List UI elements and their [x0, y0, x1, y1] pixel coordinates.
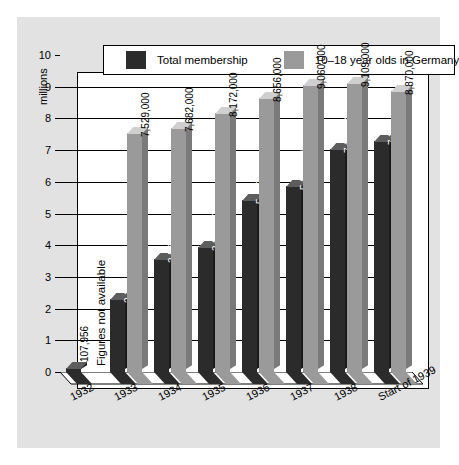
bar-front-face	[198, 247, 213, 372]
bar-value-label: 9,109,000	[360, 43, 371, 88]
legend-label-youth-population: 10–18 year olds in Germany	[315, 54, 459, 66]
bar-youth-population-start-of-1939	[391, 91, 406, 372]
bar-front-face	[154, 259, 169, 372]
bar-front-face	[286, 186, 301, 372]
y-tick-mark	[55, 55, 60, 56]
bar-value-label: 7,682,000	[184, 88, 195, 133]
y-tick-mark	[55, 214, 60, 215]
chart-panel: millions Total membership 10–18 year old…	[17, 17, 440, 448]
bar-front-face	[391, 91, 406, 372]
y-tick-mark	[55, 340, 60, 341]
y-tick-label: 2	[31, 304, 51, 314]
bar-side-face	[274, 91, 280, 369]
y-tick-mark	[55, 182, 60, 183]
bar-front-face	[374, 141, 389, 372]
annotation-figures-not-available: Figures not available	[95, 260, 107, 366]
bar-side-face	[142, 127, 148, 369]
bar-side-face	[362, 76, 368, 368]
bar-front-face	[127, 133, 142, 372]
legend-label-total-membership: Total membership	[157, 54, 248, 66]
bar-value-label: 9,060,000	[316, 44, 327, 89]
bar-youth-population-1935	[215, 113, 230, 372]
bar-side-face	[186, 122, 192, 369]
bar-front-face	[171, 128, 186, 372]
y-tick-mark	[55, 150, 60, 151]
y-tick-mark	[55, 87, 60, 88]
y-tick-label: 1	[31, 335, 51, 345]
bar-front-face	[330, 149, 345, 372]
y-tick-label: 9	[31, 82, 51, 92]
legend-swatch-dark-icon	[126, 51, 146, 69]
bar-side-face	[230, 106, 236, 369]
bar-total-membership-1933	[110, 299, 125, 372]
bar-value-label: 107,956	[79, 326, 90, 362]
bar-total-membership-1936	[242, 200, 257, 372]
y-tick-label: 4	[31, 240, 51, 250]
bar-front-face	[347, 83, 362, 372]
y-tick-label: 5	[31, 209, 51, 219]
bar-side-face	[406, 84, 412, 369]
bar-front-face	[215, 113, 230, 372]
bar-total-membership-1934	[154, 259, 169, 372]
y-tick-mark	[55, 118, 60, 119]
bar-youth-population-1937	[303, 85, 318, 372]
bar-front-face	[259, 98, 274, 372]
y-tick-label: 8	[31, 113, 51, 123]
y-tick-mark	[55, 277, 60, 278]
y-tick-label: 3	[31, 272, 51, 282]
legend-entry-youth-population: 10–18 year olds in Germany	[284, 51, 459, 69]
bar-youth-population-1933	[127, 133, 142, 372]
y-tick-label: 10	[31, 50, 51, 60]
bar-youth-population-1938	[347, 83, 362, 372]
legend-entry-total-membership: Total membership	[126, 51, 248, 69]
bar-value-label: 8,870,000	[404, 50, 415, 95]
bar-total-membership-1938	[330, 149, 345, 372]
bar-front-face	[242, 200, 257, 372]
bar-side-face	[318, 78, 324, 369]
y-tick-mark	[55, 245, 60, 246]
y-tick-mark	[55, 309, 60, 310]
legend-swatch-grey-icon	[284, 51, 304, 69]
x-axis-floor	[60, 372, 422, 384]
floor-shape	[60, 372, 424, 386]
bar-front-face	[303, 85, 318, 372]
bar-total-membership-1937	[286, 186, 301, 372]
bar-value-label: 8,172,000	[228, 72, 239, 117]
bar-total-membership-1935	[198, 247, 213, 372]
bar-total-membership-start-of-1939	[374, 141, 389, 372]
y-tick-label: 6	[31, 177, 51, 187]
bar-youth-population-1934	[171, 128, 186, 372]
y-tick-label: 0	[31, 367, 51, 377]
bar-value-label: 7,529,000	[140, 93, 151, 138]
bar-value-label: 8,656,000	[272, 57, 283, 102]
bar-youth-population-1936	[259, 98, 274, 372]
bar-front-face	[110, 299, 125, 372]
y-tick-label: 7	[31, 145, 51, 155]
